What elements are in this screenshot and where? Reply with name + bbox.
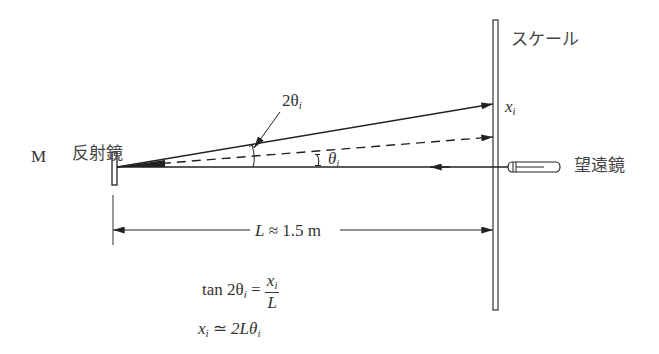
telescope-label: 望遠鏡 (574, 157, 625, 174)
mirror-name-label: 反射鏡 (72, 145, 123, 162)
distance-label: L ≈ 1.5 m (253, 222, 323, 239)
x-i-label: xi (505, 98, 516, 117)
scale-label: スケール (511, 31, 579, 48)
angle-2theta-label: 2θi (282, 92, 302, 111)
angle-theta-label: θi (328, 150, 339, 169)
equation-tan: tan 2θi = xiL (202, 272, 279, 311)
scale-bar (493, 20, 498, 310)
angle-arc-theta (317, 155, 319, 166)
mirror-normal-dashed (117, 137, 493, 167)
reflected-ray (117, 104, 493, 167)
telescope (508, 162, 560, 172)
optical-lever-diagram (0, 0, 659, 354)
equation-approx: xi ≃ 2Lθi (198, 320, 260, 339)
mirror-letter-label: M (31, 148, 46, 165)
